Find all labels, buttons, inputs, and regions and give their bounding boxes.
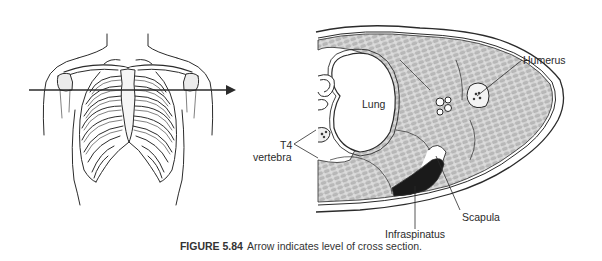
- label-vertebra: vertebra: [253, 152, 292, 163]
- figure-caption-text: Arrow indicates level of cross section.: [247, 240, 422, 252]
- label-scapula: Scapula: [462, 212, 500, 223]
- anatomy-figure: Humerus Lung T4 vertebra Scapula Infrasp…: [0, 0, 602, 261]
- label-infraspinatus: Infraspinatus: [385, 229, 445, 240]
- label-lung: Lung: [362, 99, 385, 110]
- figure-caption: FIGURE 5.84Arrow indicates level of cros…: [0, 240, 602, 252]
- figure-number: FIGURE 5.84: [180, 240, 243, 252]
- cross-section-illustration: [0, 0, 602, 240]
- label-t4: T4: [280, 140, 292, 151]
- label-humerus: Humerus: [523, 55, 566, 66]
